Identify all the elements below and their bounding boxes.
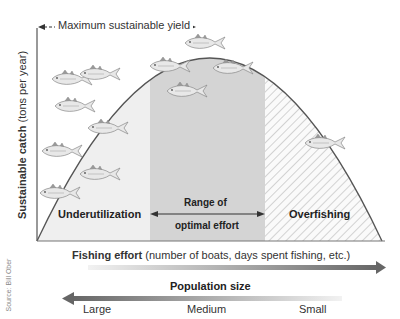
y-axis-label-rest: (tons per year) (16, 51, 28, 123)
overfishing-label: Overfishing (289, 208, 350, 220)
optimal-label-line1: Range of (184, 197, 227, 208)
fish-icon (55, 97, 95, 112)
msy-label: Maximum sustainable yield (55, 19, 193, 31)
y-axis-label: Sustainable catch (tons per year) (16, 51, 28, 219)
optimal-label-line2: optimal effort (175, 220, 239, 231)
population-tick-medium: Medium (187, 303, 226, 315)
population-title: Population size (170, 280, 251, 292)
x-axis-label-bold: Fishing effort (72, 249, 142, 261)
x-axis-label: Fishing effort (number of boats, days sp… (72, 249, 350, 261)
population-tick-small: Small (299, 303, 327, 315)
population-tick-large: Large (83, 303, 111, 315)
x-axis-label-rest: (number of boats, days spent fishing, et… (145, 249, 350, 261)
diagram-graphics (0, 0, 400, 319)
underutilization-region (37, 0, 150, 241)
source-credit: Source: Bill Ober (5, 259, 12, 312)
underutilization-label: Underutilization (58, 208, 141, 220)
population-arrow (72, 296, 342, 301)
fish-icon (185, 34, 225, 49)
overfishing-region (265, 0, 385, 241)
effort-arrow (88, 265, 378, 270)
fish-icon (42, 142, 82, 157)
y-axis-label-bold: Sustainable catch (16, 126, 28, 220)
fish-icon (80, 65, 120, 80)
